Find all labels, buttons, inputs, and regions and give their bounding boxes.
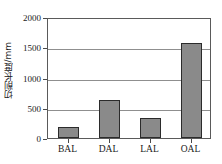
y-axis-tick-label: 500: [28, 104, 42, 114]
bar-lal: [140, 118, 161, 138]
x-axis-tick-mark: [191, 139, 192, 143]
bar-bal: [58, 127, 79, 138]
y-axis-title: 切削长度/mm: [0, 0, 16, 140]
bar-oal: [181, 43, 202, 138]
y-axis-tick-label: 1000: [23, 74, 41, 84]
y-axis-tick-label: 1500: [23, 43, 41, 53]
x-axis-label-lal: LAL: [140, 144, 158, 154]
x-axis-tick-mark: [150, 139, 151, 143]
y-axis-tick-label: 2000: [23, 13, 41, 23]
x-axis-label-bal: BAL: [58, 144, 77, 154]
y-axis-tick-labels: 0500100015002000: [16, 0, 44, 164]
x-axis-label-dal: DAL: [99, 144, 119, 154]
bar-chart: 切削长度/mm 0500100015002000 BALDALLALOAL: [0, 0, 222, 164]
y-axis-tick-mark: [43, 139, 47, 140]
x-axis-tick-mark: [109, 139, 110, 143]
x-axis-labels: BALDALLALOAL: [47, 144, 211, 162]
bar-dal: [99, 100, 120, 138]
plot-area: [47, 18, 211, 139]
y-axis-title-text: 切削长度/mm: [4, 42, 13, 99]
bars-layer: [48, 19, 210, 138]
x-axis-label-oal: OAL: [181, 144, 201, 154]
y-axis-tick-label: 0: [37, 134, 42, 144]
x-axis-tick-mark: [68, 139, 69, 143]
